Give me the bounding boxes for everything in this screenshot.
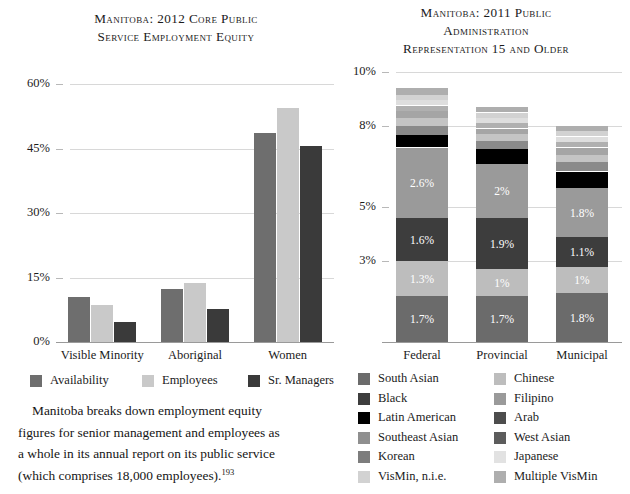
segment-value-label: 1%: [556, 274, 608, 286]
bar-availability-visible-minority: [68, 297, 90, 342]
legend-swatch-filipino: [494, 393, 506, 405]
footnote-marker: 193: [221, 466, 234, 476]
legend-item-south-asian: South Asian: [358, 372, 439, 385]
right-chart-legend: South AsianBlackLatin AmericanSoutheast …: [358, 372, 628, 492]
segment-value-label: 1%: [476, 277, 528, 289]
segment-arab-municipal: [556, 162, 608, 171]
legend-swatch-japanese: [494, 451, 506, 463]
bar-sr-managers-visible-minority: [114, 322, 136, 342]
stacked-bar-municipal: 1.8%1%1.1%1.8%: [556, 72, 608, 342]
legend-swatch-korean: [358, 451, 370, 463]
legend-swatch-employees: [142, 375, 154, 387]
y-axis-label: 5%: [336, 200, 376, 212]
y-axis-tick: [382, 207, 389, 208]
body-line-4: (which comprises 18,000 employees).193: [18, 465, 338, 487]
legend-item-arab: Arab: [494, 411, 539, 424]
legend-item-japanese: Japanese: [494, 450, 558, 463]
legend-item-korean: Korean: [358, 450, 415, 463]
bar-employees-visible-minority: [91, 305, 113, 342]
segment-latin-american-provincial: [476, 149, 528, 164]
segment-vismin-n-i-e--federal: [396, 95, 448, 100]
segment-value-label: 1.8%: [556, 207, 608, 219]
segment-vismin-n-i-e--provincial: [476, 113, 528, 118]
legend-label: South Asian: [378, 372, 439, 385]
legend-item-filipino: Filipino: [494, 392, 554, 405]
left-chart-plot: 0%15%30%45%60%Visible MinorityAboriginal…: [0, 0, 340, 370]
legend-label: Korean: [378, 450, 415, 463]
y-axis-tick: [382, 261, 389, 262]
stacked-bar-provincial: 1.7%1%1.9%2%: [476, 72, 528, 342]
legend-label: VisMin, n.i.e.: [378, 470, 446, 483]
x-axis-line: [382, 342, 622, 343]
segment-multiple-vismin-municipal: [556, 126, 608, 131]
body-line-2: figures for senior management and employ…: [18, 422, 338, 444]
bar-sr-managers-aboriginal: [207, 309, 229, 342]
legend-label: Sr. Managers: [268, 374, 334, 387]
segment-multiple-vismin-federal: [396, 88, 448, 95]
legend-item-west-asian: West Asian: [494, 431, 570, 444]
segment-arab-federal: [396, 126, 448, 135]
y-axis-label: 10%: [336, 65, 376, 77]
segment-japanese-municipal: [556, 137, 608, 142]
segment-latin-american-federal: [396, 135, 448, 147]
segment-korean-municipal: [556, 142, 608, 147]
legend-item-black: Black: [358, 392, 407, 405]
right-chart-plot: 3%5%8%10%1.7%1.3%1.6%2.6%Federal1.7%1%1.…: [340, 0, 630, 370]
legend-item-employees: Employees: [142, 374, 218, 387]
legend-item-availability: Availability: [30, 374, 109, 387]
y-axis-tick: [56, 84, 63, 85]
legend-swatch-latin-american: [358, 412, 370, 424]
y-axis-tick: [56, 213, 63, 214]
body-line-1: Manitoba breaks down employment equity: [18, 400, 338, 422]
legend-swatch-west-asian: [494, 432, 506, 444]
y-axis-label: 15%: [4, 271, 50, 283]
segment-arab-provincial: [476, 141, 528, 149]
bar-sr-managers-women: [300, 146, 322, 342]
legend-swatch-multiple-vismin: [494, 471, 506, 483]
bar-employees-women: [277, 108, 299, 342]
legend-swatch-arab: [494, 412, 506, 424]
y-axis-label: 60%: [4, 77, 50, 89]
gridline: [70, 84, 334, 85]
y-axis-label: 0%: [4, 335, 50, 347]
legend-label: Japanese: [514, 450, 558, 463]
y-axis-label: 30%: [4, 206, 50, 218]
segment-value-label: 1.9%: [476, 238, 528, 250]
y-axis-label: 45%: [4, 142, 50, 154]
body-line-3: a whole in its annual report on its publ…: [18, 443, 338, 465]
segment-value-label: 1.8%: [556, 312, 608, 324]
legend-label: Filipino: [514, 392, 554, 405]
body-line-4-text: (which comprises 18,000 employees).: [18, 468, 221, 483]
x-axis-line: [56, 342, 334, 343]
segment-value-label: 2%: [476, 185, 528, 197]
legend-label: Black: [378, 392, 407, 405]
legend-swatch-sr-managers: [248, 375, 260, 387]
bar-availability-women: [254, 133, 276, 342]
segment-latin-american-municipal: [556, 172, 608, 188]
legend-label: Chinese: [514, 372, 554, 385]
legend-item-sr-managers: Sr. Managers: [248, 374, 334, 387]
y-axis-label: 8%: [336, 119, 376, 131]
segment-korean-provincial: [476, 123, 528, 128]
segment-japanese-federal: [396, 100, 448, 105]
legend-label: Employees: [162, 374, 218, 387]
legend-swatch-availability: [30, 375, 42, 387]
left-chart-legend: AvailabilityEmployeesSr. Managers: [30, 372, 340, 392]
x-axis-category-label: Municipal: [522, 348, 630, 362]
legend-item-latin-american: Latin American: [358, 411, 456, 424]
legend-swatch-southeast-asian: [358, 432, 370, 444]
legend-label: Multiple VisMin: [514, 470, 597, 483]
legend-label: West Asian: [514, 431, 570, 444]
segment-korean-federal: [396, 106, 448, 111]
body-paragraph: Manitoba breaks down employment equity f…: [18, 400, 338, 486]
segment-west-asian-municipal: [556, 148, 608, 155]
segment-southeast-asian-municipal: [556, 154, 608, 162]
stacked-bar-federal: 1.7%1.3%1.6%2.6%: [396, 72, 448, 342]
bar-employees-aboriginal: [184, 283, 206, 342]
legend-item-southeast-asian: Southeast Asian: [358, 431, 458, 444]
legend-label: Availability: [50, 374, 109, 387]
y-axis-tick: [382, 126, 389, 127]
segment-vismin-n-i-e--municipal: [556, 131, 608, 136]
legend-label: Arab: [514, 411, 539, 424]
legend-swatch-chinese: [494, 373, 506, 385]
